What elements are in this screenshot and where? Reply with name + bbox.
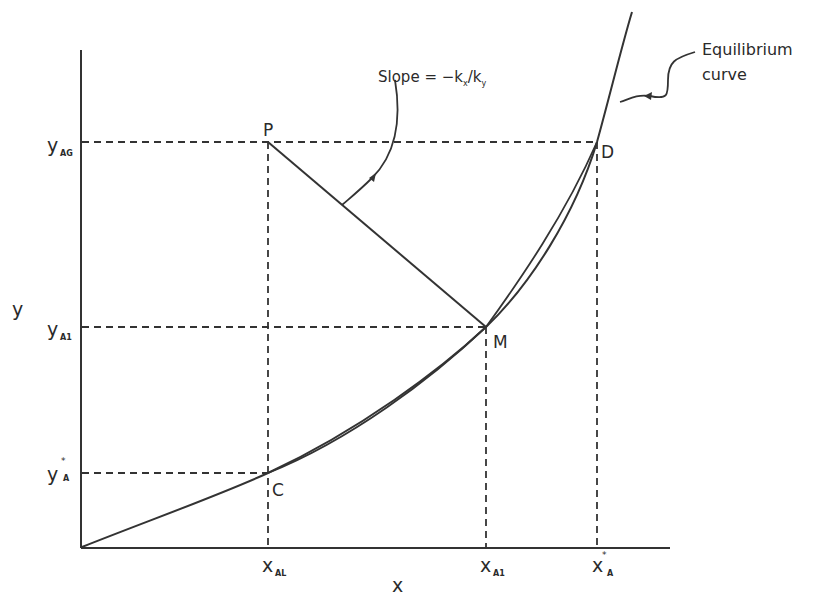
point-label-p: P [263, 120, 273, 140]
x-tick-xal: x AL [262, 554, 286, 578]
curve-leader [620, 52, 695, 102]
arrow-head-icon [644, 92, 652, 100]
svg-text:AL: AL [275, 569, 286, 578]
svg-text:A1: A1 [493, 569, 505, 578]
operating-chord-md [486, 142, 597, 327]
curve-label-line1: Equilibrium [702, 40, 793, 59]
svg-text:y: y [47, 134, 58, 156]
svg-text:x: x [480, 554, 491, 576]
svg-text:A: A [607, 569, 614, 578]
point-label-m: M [493, 332, 508, 352]
operating-chord-cm [268, 327, 486, 473]
svg-text:*: * [602, 550, 607, 560]
svg-text:AG: AG [60, 149, 73, 158]
slope-annotation: Slope = −kx/ky [378, 68, 486, 88]
y-tick-ya-star: y * A [47, 456, 70, 485]
equilibrium-curve [82, 12, 632, 547]
svg-text:A1: A1 [60, 333, 72, 342]
curve-label-line2: curve [702, 65, 747, 84]
x-tick-xa-star: x * A [592, 550, 614, 578]
y-axis-title: y [12, 298, 23, 320]
diagram-canvas: P M C D y x y AG y A1 y * A x AL x A1 x … [0, 0, 822, 599]
x-axis-title: x [392, 574, 403, 596]
slope-line-pm [268, 142, 486, 327]
x-tick-xa1: x A1 [480, 554, 505, 578]
svg-text:y: y [47, 318, 58, 340]
svg-text:*: * [61, 456, 66, 466]
svg-text:A: A [63, 474, 70, 483]
svg-text:Slope = −kx/ky: Slope = −kx/ky [378, 68, 486, 88]
point-label-d: D [601, 142, 614, 162]
svg-text:x: x [262, 554, 273, 576]
y-tick-ya1: y A1 [47, 318, 72, 342]
point-label-c: C [272, 480, 284, 500]
y-tick-yag: y AG [47, 134, 73, 158]
svg-text:y: y [47, 463, 58, 485]
